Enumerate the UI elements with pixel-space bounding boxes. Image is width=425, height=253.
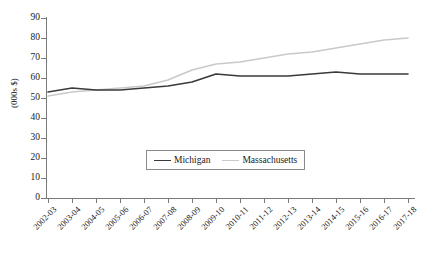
x-tick-mark: [408, 199, 409, 203]
y-tick-label: 30: [18, 133, 40, 143]
x-tick-mark: [336, 199, 337, 203]
x-tick-mark: [192, 199, 193, 203]
x-tick-mark: [144, 199, 145, 203]
x-tick-mark: [288, 199, 289, 203]
x-tick-mark: [72, 199, 73, 203]
y-tick-label: 40: [18, 113, 40, 123]
x-tick-mark: [384, 199, 385, 203]
y-axis-tick-labels: 0102030405060708090: [14, 0, 40, 253]
x-tick-mark: [312, 199, 313, 203]
y-tick-label: 80: [18, 33, 40, 43]
x-tick-mark: [48, 199, 49, 203]
x-tick-mark: [96, 199, 97, 203]
y-tick-label: 10: [18, 173, 40, 183]
x-tick-mark: [240, 199, 241, 203]
y-tick-label: 70: [18, 53, 40, 63]
x-tick-mark: [216, 199, 217, 203]
chart-legend: MichiganMassachusetts: [146, 150, 305, 170]
y-tick-label: 60: [18, 73, 40, 83]
y-tick-label: 20: [18, 153, 40, 163]
y-tick-label: 50: [18, 93, 40, 103]
y-tick-label: 0: [18, 193, 40, 203]
line-chart: (000s $) 0102030405060708090 2002-032003…: [0, 0, 425, 253]
x-tick-mark: [120, 199, 121, 203]
legend-label: Massachusetts: [242, 155, 297, 165]
plot-area: [46, 18, 414, 198]
legend-entry-michigan: Michigan: [154, 155, 210, 165]
legend-entry-massachusetts: Massachusetts: [222, 155, 297, 165]
x-tick-mark: [360, 199, 361, 203]
series-lines: [46, 18, 414, 198]
x-tick-mark: [168, 199, 169, 203]
legend-label: Michigan: [174, 155, 210, 165]
legend-swatch-michigan: [154, 160, 171, 161]
series-line-massachusetts: [48, 38, 408, 96]
legend-swatch-massachusetts: [222, 160, 239, 161]
y-tick-label: 90: [18, 13, 40, 23]
y-tick-mark: [41, 198, 46, 199]
x-tick-mark: [264, 199, 265, 203]
